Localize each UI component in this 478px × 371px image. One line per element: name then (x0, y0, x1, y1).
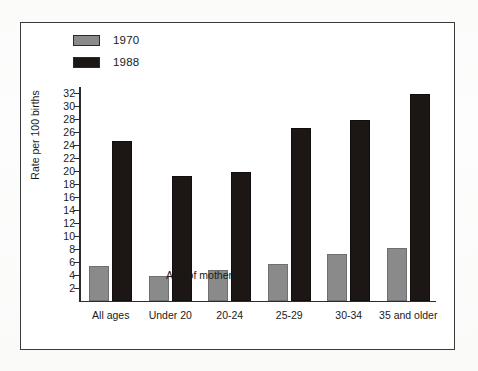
x-tick-label: 30-34 (335, 309, 362, 321)
legend-swatch-1970 (73, 35, 100, 46)
y-axis-title: Rate per 100 births (29, 90, 41, 179)
bar-1988-all-ages (112, 141, 132, 301)
x-axis-title: Age of mother (166, 269, 232, 281)
legend-item-1970: 1970 (73, 31, 139, 49)
y-tick-label: 10 (57, 230, 75, 242)
x-axis-line (79, 301, 436, 303)
bar-1988-35-and-older (410, 94, 430, 300)
bar-1988-under-20 (172, 176, 192, 300)
legend-swatch-1988 (73, 57, 100, 68)
y-axis-line (79, 87, 81, 302)
x-tick-label: 35 and older (379, 309, 437, 321)
y-tick-label: 18 (57, 178, 75, 190)
y-tick-label: 26 (57, 126, 75, 138)
chart-legend: 1970 1988 (73, 31, 139, 75)
y-tick-label: 4 (57, 269, 75, 281)
y-tick-label: 8 (57, 243, 75, 255)
bar-1988-20-24 (231, 172, 251, 300)
x-tick-label: 25-29 (276, 309, 303, 321)
y-tick-label: 30 (57, 100, 75, 112)
y-tick-label: 24 (57, 139, 75, 151)
legend-label-1970: 1970 (113, 34, 139, 46)
x-tick-label: 20-24 (216, 309, 243, 321)
bar-1970-25-29 (268, 264, 288, 301)
y-tick-label: 12 (57, 217, 75, 229)
x-tick-label: All ages (92, 309, 129, 321)
chart-frame: 1970 1988 2468101214161820222426283032 A… (20, 22, 455, 350)
x-tick-label: Under 20 (149, 309, 192, 321)
bar-1988-25-29 (291, 128, 311, 300)
bar-1988-30-34 (350, 120, 370, 301)
bar-1970-30-34 (327, 254, 347, 301)
y-tick-label: 20 (57, 165, 75, 177)
legend-item-1988: 1988 (73, 53, 139, 71)
legend-label-1988: 1988 (113, 56, 139, 68)
bar-1970-35-and-older (387, 248, 407, 300)
y-tick-label: 6 (57, 256, 75, 268)
plot-area: 2468101214161820222426283032 All agesUnd… (79, 87, 436, 302)
y-tick-label: 2 (57, 282, 75, 294)
y-tick-label: 32 (57, 87, 75, 99)
y-tick-label: 28 (57, 113, 75, 125)
y-tick-label: 16 (57, 191, 75, 203)
y-tick-label: 22 (57, 152, 75, 164)
bar-1970-all-ages (89, 266, 109, 301)
y-tick-label: 14 (57, 204, 75, 216)
